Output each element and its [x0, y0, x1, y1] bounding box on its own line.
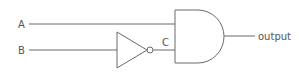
intermediate-c-label: C — [162, 37, 169, 48]
not-gate-bubble-icon — [147, 47, 153, 53]
not-gate-icon — [117, 32, 147, 68]
output-label: output — [258, 31, 291, 42]
input-a-label: A — [18, 19, 25, 30]
logic-diagram: A B C output — [0, 0, 299, 74]
input-b-label: B — [18, 45, 25, 56]
and-gate-icon — [175, 10, 224, 63]
